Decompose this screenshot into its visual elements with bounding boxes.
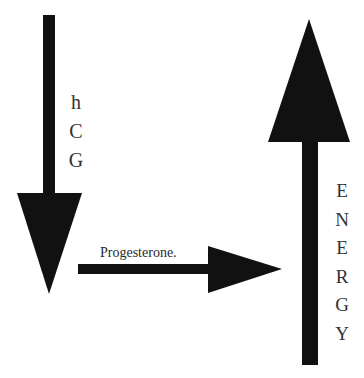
hcg-arrow-shaft [43,15,55,195]
hcg-letter: C [69,117,82,146]
energy-letter: E [336,234,348,263]
energy-letter: G [335,291,349,320]
progesterone-label: Progesterone. [100,245,177,261]
progesterone-arrow-shaft [78,264,210,274]
arrows-layer [0,0,364,378]
hcg-letter: h [71,88,81,117]
diagram-canvas: h C G Progesterone. E N E R G Y [0,0,364,378]
energy-label: E N E R G Y [331,177,353,349]
hcg-letter: G [69,146,83,175]
energy-arrow-head [268,19,350,142]
energy-letter: N [335,206,349,235]
energy-letter: E [336,177,348,206]
progesterone-arrow-head [208,246,282,293]
hcg-arrow-head [17,193,82,294]
hcg-label: h C G [66,88,86,175]
energy-arrow-shaft [302,140,318,365]
energy-letter: R [336,263,349,292]
energy-letter: Y [335,320,349,349]
